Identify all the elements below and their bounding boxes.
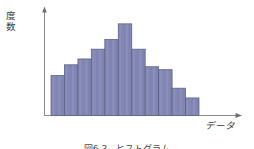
histogram-plot bbox=[0, 0, 254, 149]
histogram-bars bbox=[51, 24, 199, 116]
figure-caption: 図6.3 ヒストグラム bbox=[0, 142, 254, 149]
y-axis bbox=[42, 7, 47, 116]
histogram-figure: 1 度 数 データ 図6.3 ヒストグラム bbox=[0, 0, 254, 149]
